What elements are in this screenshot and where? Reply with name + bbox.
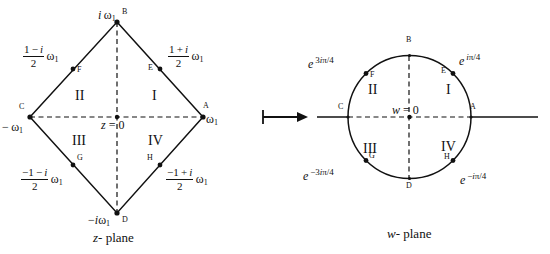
w-vertex-D-label: D	[406, 182, 412, 190]
w-vertex-C-dot	[346, 115, 349, 118]
w-midpoint-G-value: e −3iπ/4	[303, 168, 334, 182]
w-midpoint-F-label: F	[370, 71, 374, 79]
w-vertex-C-label: C	[338, 103, 343, 111]
w-quadrant-III: III	[363, 142, 377, 156]
z-midpoint-G-value: −1 − i2 ω1	[21, 168, 63, 193]
z-quadrant-III: III	[72, 134, 86, 148]
w-vertex-D-dot	[408, 177, 411, 180]
mapping-arrow-glyph	[263, 110, 308, 124]
z-quadrant-IV: IV	[148, 134, 163, 148]
z-vertex-D-dot	[114, 210, 119, 215]
z-vertex-A-value: ω1	[206, 113, 218, 125]
z-midpoint-E-dot	[158, 67, 163, 72]
z-vertex-D-value: −iω1	[88, 214, 110, 226]
w-vertex-B-dot	[408, 54, 411, 57]
w-vertex-A-label: A	[470, 103, 476, 111]
z-midpoint-G-label: G	[77, 154, 83, 162]
z-vertex-D-label: D	[122, 216, 128, 224]
w-midpoint-F-value: e 3iπ/4	[308, 56, 334, 70]
z-vertex-C-value: − ω1	[2, 121, 23, 133]
z-vertex-B-value: i ω1	[98, 9, 116, 21]
w-quadrant-IV: IV	[441, 140, 456, 154]
w-midpoint-E-dot	[451, 71, 456, 76]
figure-canvas	[0, 0, 550, 254]
conformal-mapping-figure: i ω1 B ω1 A − ω1 C −iω1 D z = 0 1 − i2 ω…	[0, 0, 550, 254]
z-midpoint-F-value: 1 − i2 ω1	[23, 45, 58, 70]
z-origin-label: z = 0	[101, 119, 124, 131]
w-quadrant-I: I	[446, 83, 451, 97]
w-midpoint-E-value: e iπ/4	[459, 53, 480, 67]
w-quadrant-II: II	[368, 83, 377, 97]
z-vertex-C-dot	[27, 114, 32, 119]
w-midpoint-F-dot	[364, 71, 369, 76]
w-midpoint-H-dot	[451, 158, 456, 163]
z-quadrant-II: II	[75, 89, 84, 103]
z-midpoint-H-dot	[158, 163, 163, 168]
z-quadrant-I: I	[152, 89, 157, 103]
w-vertex-A-dot	[469, 115, 472, 118]
z-midpoint-E-label: E	[148, 64, 153, 72]
w-midpoint-E-label: E	[441, 67, 446, 75]
w-midpoint-H-value: e −iπ/4	[460, 172, 486, 186]
z-vertex-A-dot	[200, 114, 205, 119]
z-midpoint-H-label: H	[147, 154, 153, 162]
w-plane-caption: w- plane	[387, 227, 431, 240]
z-vertex-C-label: C	[19, 103, 24, 111]
z-vertex-B-label: B	[122, 8, 127, 16]
z-midpoint-E-value: 1 + i2 ω1	[168, 45, 203, 70]
z-midpoint-F-label: F	[77, 66, 81, 74]
w-plane-group	[317, 54, 538, 180]
w-origin-label: w = 0	[392, 104, 419, 116]
z-midpoint-F-dot	[71, 67, 76, 72]
w-vertex-B-label: B	[406, 36, 411, 44]
z-plane-caption: z- plane	[93, 231, 134, 244]
z-vertex-A-label: A	[203, 102, 209, 110]
w-midpoint-H-label: H	[444, 153, 450, 161]
z-midpoint-G-dot	[71, 163, 76, 168]
w-midpoint-G-dot	[364, 158, 369, 163]
z-midpoint-H-value: −1 + i2 ω1	[166, 168, 208, 193]
